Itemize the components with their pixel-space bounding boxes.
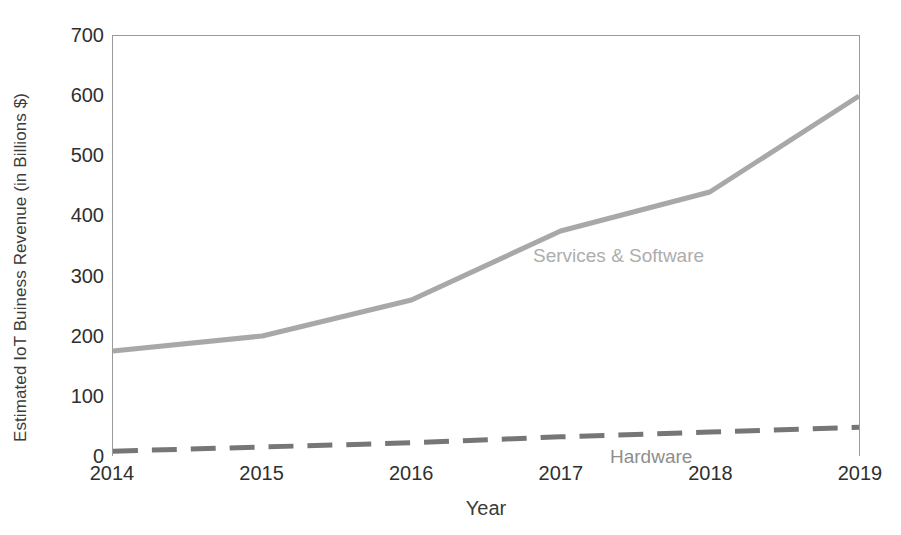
y-axis-tick-label: 600 [44, 84, 104, 107]
x-axis-tick-label: 2015 [217, 462, 307, 485]
x-axis-tick-label: 2016 [366, 462, 456, 485]
line-chart: Estimated IoT Buiness Revenue (in Billio… [0, 0, 901, 535]
y-axis-tick-labels: 0100200300400500600700 [44, 0, 104, 535]
x-axis-tick-label: 2014 [67, 462, 157, 485]
x-axis-tick-label: 2017 [516, 462, 606, 485]
series-line-services-software [113, 96, 859, 351]
x-axis-tick-labels: 201420152016201720182019 [112, 462, 860, 496]
x-axis-tick-label: 2018 [665, 462, 755, 485]
x-axis-tick-label: 2019 [815, 462, 901, 485]
x-axis-title: Year [112, 497, 860, 520]
plot-series-canvas [113, 36, 859, 456]
y-axis-tick-label: 700 [44, 24, 104, 47]
series-label-services-software: Services & Software [533, 245, 704, 267]
y-axis-title: Estimated IoT Buiness Revenue (in Billio… [0, 0, 42, 535]
y-axis-tick-label: 200 [44, 324, 104, 347]
y-axis-tick-label: 400 [44, 204, 104, 227]
y-axis-tick-label: 100 [44, 384, 104, 407]
series-line-hardware [113, 427, 859, 451]
y-axis-tick-label: 500 [44, 144, 104, 167]
plot-area [112, 35, 860, 456]
y-axis-tick-label: 300 [44, 264, 104, 287]
